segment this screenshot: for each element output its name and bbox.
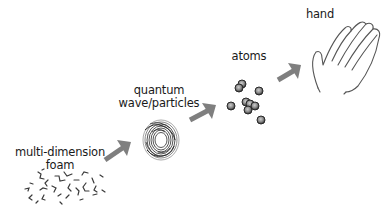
arrow-quantum-to-atoms-icon: [190, 103, 216, 120]
atoms-icon: [227, 80, 265, 124]
arrow-atoms-to-hand-icon: [278, 63, 301, 80]
quantum-wave-icon: [143, 120, 179, 160]
foam-icon: [25, 169, 105, 204]
hand-icon: [312, 22, 379, 94]
arrow-foam-to-quantum-icon: [105, 140, 131, 160]
diagram-canvas: multi-dimension foam quantum wave/partic…: [0, 0, 388, 216]
diagram-graphics: [0, 0, 388, 216]
